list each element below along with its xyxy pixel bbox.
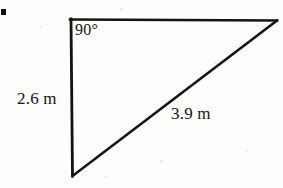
scan-speck	[104, 176, 107, 178]
scan-speck	[214, 62, 217, 64]
scan-speck	[246, 150, 248, 152]
scan-speck	[120, 8, 123, 11]
scan-speck	[40, 26, 42, 28]
triangle-top-leg	[70, 20, 277, 21]
triangle-vertical-leg	[71, 19, 73, 176]
hypotenuse-length-label: 3.9 m	[171, 105, 211, 122]
right-angle-label: 90°	[75, 22, 98, 38]
triangle-hypotenuse	[73, 21, 278, 177]
geometry-figure: 90° 2.6 m 3.9 m	[0, 0, 283, 188]
vertical-leg-length-label: 2.6 m	[17, 90, 57, 107]
scan-speck	[160, 160, 163, 163]
